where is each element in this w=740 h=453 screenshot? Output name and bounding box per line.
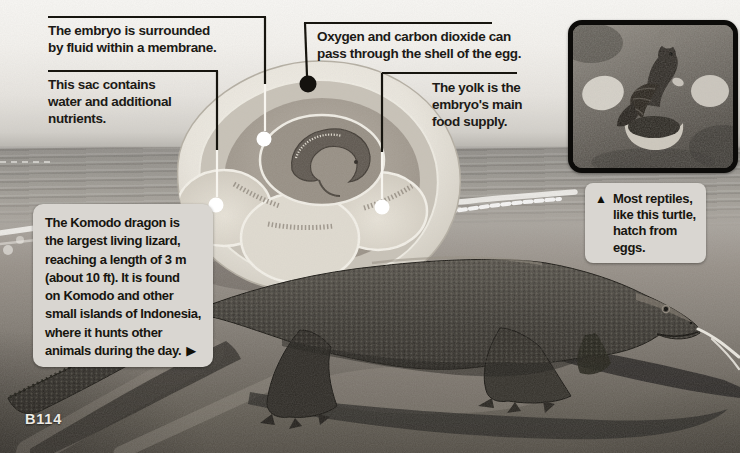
up-arrow-icon: ▲ [595,191,607,207]
page-number: B114 [25,411,62,427]
komodo-caption-box: The Komodo dragon is the largest living … [33,204,213,367]
callout-label-embryo: The embryo is surrounded by fluid within… [48,22,216,56]
callout-dot-embryo [257,132,272,147]
callout-label-sac: This sac contains water and additional n… [48,76,172,127]
turtle-inset-frame [568,20,738,173]
callout-dot-yolk [375,200,390,215]
komodo-caption-text: The Komodo dragon is the largest living … [45,215,201,358]
callout-label-shell: Oxygen and carbon dioxide can pass throu… [317,28,521,62]
callout-dot-shell [300,76,317,93]
right-arrow-icon: ▶ [186,343,196,358]
turtle-caption-box: ▲ Most reptiles, like this turtle, hatch… [585,183,706,263]
turtle-caption-text: Most reptiles, like this turtle, hatch f… [613,191,696,256]
callout-label-yolk: The yolk is the embryo's main food suppl… [432,79,522,130]
turtle-photo [573,25,733,168]
textbook-page: The embryo is surrounded by fluid within… [0,0,740,453]
